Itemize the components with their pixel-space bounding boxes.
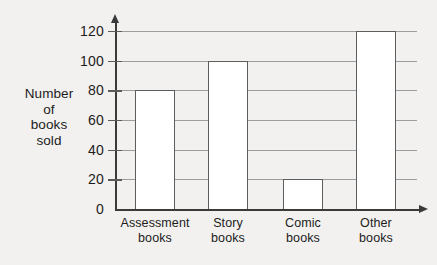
y-tick-mark-40 <box>108 150 122 151</box>
bar-other-books <box>356 31 396 210</box>
x-category-label-comic-books-line-2: books <box>263 231 343 246</box>
y-tick-label-20: 20 <box>64 171 104 187</box>
y-tick-mark-100 <box>108 61 122 62</box>
x-category-label-other-books: Other books <box>336 216 416 245</box>
x-category-label-assessment-books: Assessment books <box>115 216 195 245</box>
x-category-label-other-books-line-2: books <box>336 231 416 246</box>
x-category-label-other-books-line-1: Other <box>336 216 416 231</box>
y-tick-label-120: 120 <box>64 23 104 39</box>
bar-chart: Number of books sold <box>0 0 437 265</box>
x-axis-line <box>115 209 421 211</box>
y-axis-line <box>115 22 117 210</box>
bar-assessment-books <box>135 90 175 209</box>
x-axis-arrow-icon <box>419 205 428 213</box>
plot-area: 120 100 80 60 40 20 0 Assessment books S… <box>0 0 437 265</box>
y-tick-label-100: 100 <box>64 53 104 69</box>
y-axis-arrow-icon <box>111 14 119 23</box>
x-category-label-assessment-books-line-1: Assessment <box>115 216 195 231</box>
y-tick-label-80: 80 <box>64 82 104 98</box>
y-tick-mark-60 <box>108 120 122 121</box>
x-category-label-comic-books: Comic books <box>263 216 343 245</box>
y-tick-mark-120 <box>108 31 122 32</box>
y-tick-mark-80 <box>108 90 122 91</box>
y-tick-label-60: 60 <box>64 112 104 128</box>
x-category-label-story-books: Story books <box>188 216 268 245</box>
bar-comic-books <box>283 179 323 209</box>
x-category-label-comic-books-line-1: Comic <box>263 216 343 231</box>
y-tick-label-0: 0 <box>64 201 104 217</box>
bar-story-books <box>208 61 248 210</box>
x-category-label-story-books-line-1: Story <box>188 216 268 231</box>
x-category-label-assessment-books-line-2: books <box>115 231 195 246</box>
x-category-label-story-books-line-2: books <box>188 231 268 246</box>
y-tick-label-40: 40 <box>64 142 104 158</box>
y-tick-mark-20 <box>108 179 122 180</box>
